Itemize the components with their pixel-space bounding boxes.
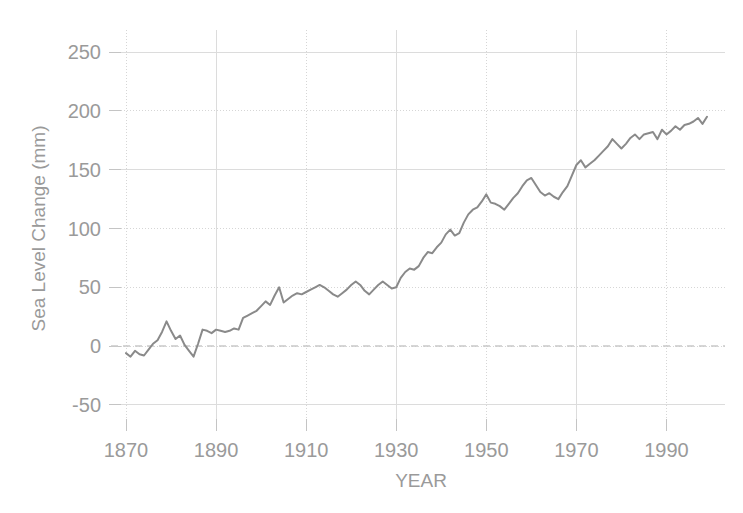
x-tick-label: 1890 xyxy=(194,439,239,461)
x-tick-label: 1910 xyxy=(284,439,329,461)
y-tick-label: 0 xyxy=(90,335,101,357)
x-tick-label: 1990 xyxy=(644,439,689,461)
y-tick-label: 50 xyxy=(79,276,101,298)
data-line-sea-level xyxy=(126,117,707,357)
chart-figure: -500501001502002501870189019101930195019… xyxy=(0,0,743,513)
y-tick-label: 100 xyxy=(68,218,101,240)
x-axis-title: YEAR xyxy=(395,470,447,491)
x-tick-label: 1970 xyxy=(554,439,599,461)
y-tick-label: 150 xyxy=(68,159,101,181)
y-axis-title: Sea Level Change (mm) xyxy=(28,126,49,332)
x-tick-label: 1950 xyxy=(464,439,509,461)
x-tick-label: 1870 xyxy=(104,439,149,461)
y-tick-label: 200 xyxy=(68,100,101,122)
y-tick-label: -50 xyxy=(72,394,101,416)
x-tick-label: 1930 xyxy=(374,439,419,461)
y-tick-label: 250 xyxy=(68,41,101,63)
sea-level-line-chart: -500501001502002501870189019101930195019… xyxy=(0,0,743,513)
